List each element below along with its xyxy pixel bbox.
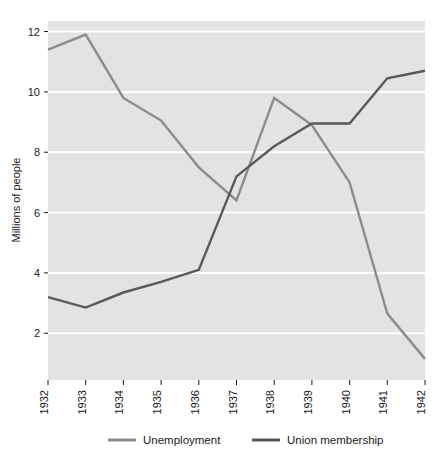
- x-tick-label: 1940: [340, 390, 352, 414]
- x-tick-label: 1938: [264, 390, 276, 414]
- y-tick-label: 12: [28, 26, 40, 38]
- x-tick-label: 1942: [415, 390, 427, 414]
- x-tick-label: 1933: [76, 390, 88, 414]
- y-tick-label: 2: [34, 327, 40, 339]
- y-tick-label: 8: [34, 146, 40, 158]
- legend-label: Unemployment: [143, 434, 221, 446]
- x-tick-label: 1937: [227, 390, 239, 414]
- y-tick-label: 4: [34, 267, 40, 279]
- y-axis-title: Millions of people: [10, 158, 22, 243]
- x-tick-label: 1935: [151, 390, 163, 414]
- x-tick-label: 1932: [38, 390, 50, 414]
- line-chart: 24681012 1932193319341935193619371938193…: [0, 0, 443, 458]
- y-tick-label: 6: [34, 207, 40, 219]
- x-tick-label: 1939: [302, 390, 314, 414]
- legend-label: Union membership: [287, 434, 384, 446]
- x-tick-label: 1941: [377, 390, 389, 414]
- y-tick-label: 10: [28, 86, 40, 98]
- chart-canvas: 24681012 1932193319341935193619371938193…: [0, 0, 443, 458]
- x-tick-label: 1934: [113, 390, 125, 414]
- x-tick-label: 1936: [189, 390, 201, 414]
